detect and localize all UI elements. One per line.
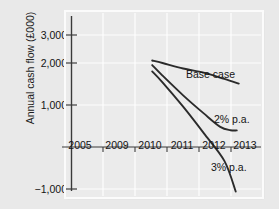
cash-flow-line-chart: Annual cash flow (£000) 3,000 2,000 1,00… xyxy=(0,0,279,209)
x-axis-tick-label-2011: 2011 xyxy=(171,139,194,151)
x-axis-tick-label-2012: 2012 xyxy=(202,139,225,151)
x-axis-tick-label-2013: 2013 xyxy=(233,139,256,151)
x-axis-tick-label-2009: 2009 xyxy=(105,139,128,151)
x-axis-tick-label-2010: 2010 xyxy=(138,139,161,151)
series-label-base-case: Base case xyxy=(186,68,235,80)
series-line-3-p-a xyxy=(152,71,236,191)
x-axis-tick-label-2005: 2005 xyxy=(68,139,91,151)
series-label-3-percent: 3% p.a. xyxy=(211,161,247,173)
series-label-2-percent: 2% p.a. xyxy=(214,113,250,125)
chart-canvas xyxy=(0,0,279,209)
